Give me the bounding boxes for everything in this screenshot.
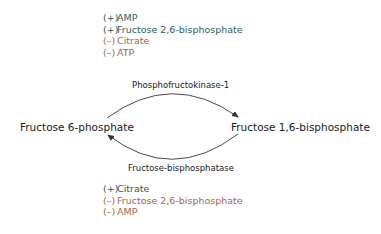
right-metabolite-label: Fructose 1,6-bisphosphate (231, 121, 370, 133)
left-metabolite-label: Fructose 6-phosphate (20, 121, 134, 133)
reverse-arrow (108, 134, 238, 159)
forward-enzyme-label: Phosphofructokinase-1 (132, 80, 229, 90)
regulator-sign: (–) (103, 195, 117, 207)
regulator-item: (–)AMP (103, 206, 243, 218)
regulator-item: (+)Citrate (103, 183, 243, 195)
reverse-enzyme-label: Fructose-bisphosphatase (128, 163, 234, 173)
forward-arrow (107, 94, 238, 118)
regulator-name: Citrate (117, 183, 149, 194)
regulator-sign: (–) (103, 206, 117, 218)
regulator-item: (–)Fructose 2,6-bisphosphate (103, 195, 243, 207)
regulator-name: AMP (117, 206, 137, 217)
bottom-regulator-list: (+)Citrate (–)Fructose 2,6-bisphosphate … (103, 183, 243, 218)
regulator-sign: (+) (103, 183, 117, 195)
regulator-name: Fructose 2,6-bisphosphate (117, 195, 243, 206)
